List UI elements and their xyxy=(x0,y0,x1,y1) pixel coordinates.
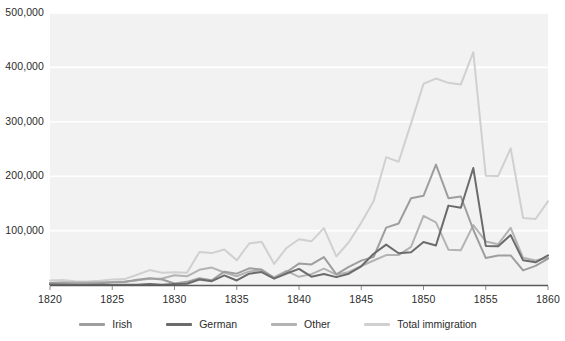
x-axis-tick-label: 1835 xyxy=(207,293,267,305)
legend-swatch-icon xyxy=(364,323,390,326)
legend-swatch-icon xyxy=(166,323,192,326)
x-axis-tick-label: 1860 xyxy=(518,293,565,305)
x-axis-tick-label: 1825 xyxy=(82,293,142,305)
x-axis-tick-label: 1840 xyxy=(269,293,329,305)
legend-swatch-icon xyxy=(271,323,297,326)
legend-item-total-immigration[interactable]: Total immigration xyxy=(364,318,476,330)
y-axis-tick-label: 500,000 xyxy=(0,6,44,18)
x-axis-tick-label: 1845 xyxy=(331,293,391,305)
legend-swatch-icon xyxy=(79,323,105,326)
y-axis-tick-label: 300,000 xyxy=(0,115,44,127)
legend-item-other[interactable]: Other xyxy=(271,318,330,330)
legend-label: German xyxy=(199,318,237,330)
legend-item-german[interactable]: German xyxy=(166,318,237,330)
y-axis-tick-label: 400,000 xyxy=(0,60,44,72)
chart-legend: IrishGermanOtherTotal immigration xyxy=(0,313,556,335)
x-axis-tick-label: 1820 xyxy=(20,293,80,305)
legend-label: Total immigration xyxy=(397,318,476,330)
legend-label: Irish xyxy=(112,318,132,330)
x-axis-tick-label: 1850 xyxy=(394,293,454,305)
legend-label: Other xyxy=(304,318,330,330)
x-axis-ticks xyxy=(50,286,548,290)
y-axis-tick-label: 100,000 xyxy=(0,224,44,236)
x-axis-tick-label: 1855 xyxy=(456,293,516,305)
y-axis-tick-label: 200,000 xyxy=(0,169,44,181)
x-axis-tick-label: 1830 xyxy=(145,293,205,305)
legend-item-irish[interactable]: Irish xyxy=(79,318,132,330)
